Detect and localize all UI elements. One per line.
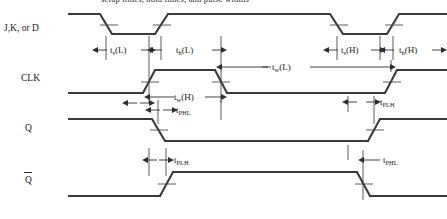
waveform-clk — [68, 70, 447, 93]
row-label-data: J,K, or D — [4, 23, 39, 33]
label-hold-low: th(L) — [176, 45, 193, 56]
label-setup-high: ts(H) — [341, 45, 359, 56]
label-qbar-phl: tPHL — [383, 155, 398, 166]
waveform-q — [68, 119, 447, 141]
waveform-qbar — [68, 172, 447, 196]
waveform-data — [68, 14, 447, 34]
label-width-low: tw(L) — [272, 62, 291, 73]
label-hold-high: th(H) — [399, 45, 417, 56]
label-setup-low: ts(L) — [110, 45, 127, 56]
label-q-phl: tPHL — [176, 105, 191, 116]
label-qbar-plh: tPLH — [174, 155, 189, 166]
row-label-clk: CLK — [21, 73, 40, 83]
row-label-q: Q — [25, 123, 32, 133]
label-q-plh: tPLH — [380, 97, 395, 108]
timing-diagram-figure: setup times, hold times, and pulse width… — [0, 0, 447, 219]
dimension-q-phl — [128, 103, 172, 110]
row-label-qbar: Q — [25, 175, 32, 185]
label-width-high: tw(H) — [174, 92, 194, 103]
timing-diagram-canvas: J,K, or D CLK Q Q — [0, 0, 447, 219]
